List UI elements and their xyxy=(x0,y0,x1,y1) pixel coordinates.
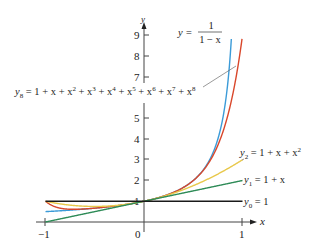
label-y2: y2 = 1 + x + x2 xyxy=(239,146,301,161)
y-tick-label-8: 8 xyxy=(134,50,140,62)
y-tick-label-9: 9 xyxy=(134,29,140,41)
x-tick-label-0: 0 xyxy=(135,228,141,240)
x-axis-arrow-icon xyxy=(250,220,257,225)
svg-text:y =: y = xyxy=(177,27,192,38)
x-tick-label-neg1: −1 xyxy=(38,228,50,240)
label-y0: y0 = 1 xyxy=(243,196,269,210)
x-tick-label-1: 1 xyxy=(239,228,245,240)
y8-leader-line xyxy=(203,66,236,87)
y-tick-label-4: 4 xyxy=(134,133,140,145)
x-axis-label: x xyxy=(259,215,265,227)
y-axis-label: y xyxy=(140,14,145,24)
svg-text:1 − x: 1 − x xyxy=(199,34,221,45)
series-chart: 1 2 3 4 5 7 8 9 −1 0 1 x y y = 1 1 − x y… xyxy=(0,0,325,249)
label-geometric: y = 1 1 − x xyxy=(177,20,222,45)
y-tick-label-5: 5 xyxy=(134,112,140,124)
label-y8: y8 = 1 + x + x2 + x3 + x4 + x5 + x6 + x7… xyxy=(14,85,196,100)
svg-text:1: 1 xyxy=(208,20,213,31)
label-y1: y1 = 1 + x xyxy=(243,174,286,188)
y-tick-label-2: 2 xyxy=(134,174,140,186)
y-tick-label-3: 3 xyxy=(134,153,140,165)
y-tick-label-7: 7 xyxy=(134,71,140,83)
y-ticks xyxy=(144,35,149,201)
